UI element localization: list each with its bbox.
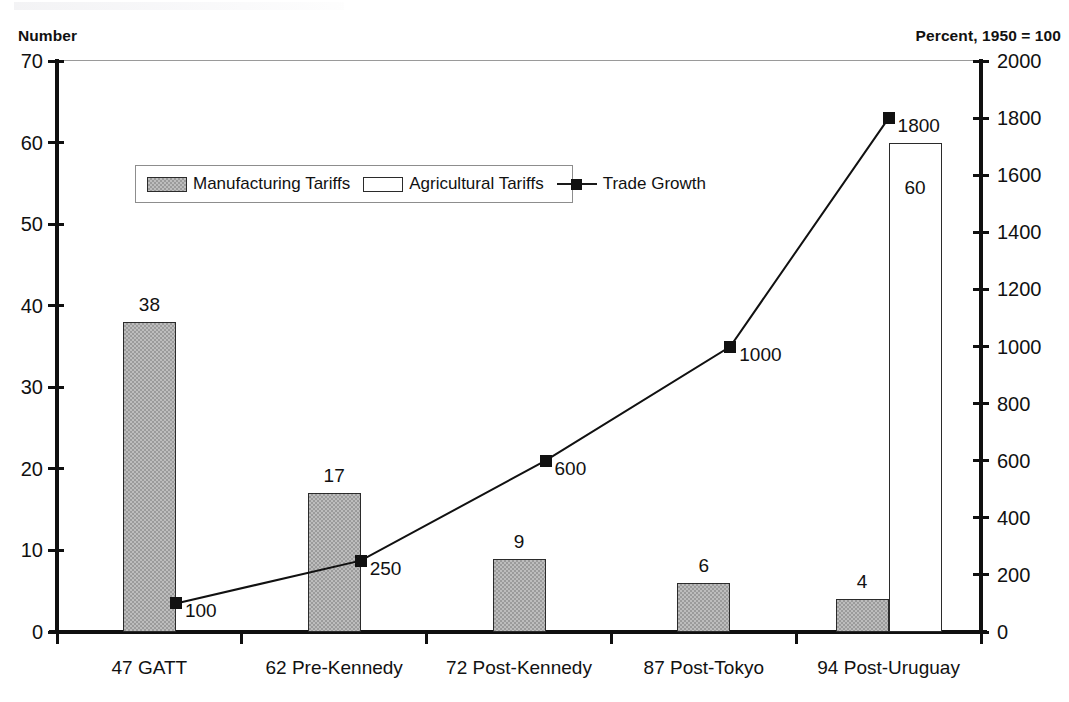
x-tick — [240, 630, 243, 644]
legend-label-trade-growth: Trade Growth — [603, 174, 706, 194]
left-tick-label: 50 — [21, 214, 43, 234]
right-tick-label: 200 — [997, 565, 1030, 585]
left-tick-label: 40 — [21, 296, 43, 316]
right-tick-label: 600 — [997, 451, 1030, 471]
x-category-label: 87 Post-Tokyo — [644, 657, 764, 679]
legend-item-agricultural: Agricultural Tariffs — [363, 174, 543, 194]
legend-item-manufacturing: Manufacturing Tariffs — [147, 174, 350, 194]
plot-area: 010203040506070 020040060080010001200140… — [57, 61, 981, 632]
scan-artifact — [14, 2, 344, 10]
chart-figure: Number Percent, 1950 = 100 0102030405060… — [0, 0, 1069, 702]
right-tick-label: 400 — [997, 508, 1030, 528]
trade-growth-swatch-icon — [557, 178, 597, 190]
right-tick-label: 1400 — [997, 222, 1042, 242]
trade-growth-marker — [355, 555, 367, 567]
x-tick — [425, 630, 428, 644]
right-tick-label: 2000 — [997, 51, 1042, 71]
right-axis-title: Percent, 1950 = 100 — [916, 27, 1061, 45]
x-category-label: 72 Post-Kennedy — [446, 657, 592, 679]
manufacturing-swatch-icon — [147, 177, 187, 192]
x-tick — [980, 630, 983, 644]
agricultural-swatch-icon — [363, 177, 403, 192]
left-tick-label: 20 — [21, 459, 43, 479]
left-axis-title: Number — [18, 27, 77, 45]
trade-growth-line — [57, 61, 981, 632]
trade-growth-value-label: 100 — [185, 600, 217, 622]
legend-label-agricultural: Agricultural Tariffs — [409, 174, 543, 194]
trade-growth-marker — [883, 112, 895, 124]
trade-growth-value-label: 1800 — [898, 115, 940, 137]
trade-growth-marker — [724, 341, 736, 353]
legend-item-trade-growth: Trade Growth — [557, 174, 706, 194]
left-tick-label: 60 — [21, 133, 43, 153]
left-tick-label: 10 — [21, 540, 43, 560]
trade-growth-value-label: 1000 — [739, 344, 781, 366]
right-tick-label: 1800 — [997, 108, 1042, 128]
x-category-label: 62 Pre-Kennedy — [266, 657, 403, 679]
x-tick — [610, 630, 613, 644]
trade-growth-marker — [540, 455, 552, 467]
right-tick-label: 800 — [997, 394, 1030, 414]
left-tick-label: 70 — [21, 51, 43, 71]
trade-growth-marker — [170, 597, 182, 609]
legend: Manufacturing Tariffs Agricultural Tarif… — [135, 165, 573, 203]
x-category-label: 47 GATT — [112, 657, 188, 679]
right-tick-label: 0 — [997, 622, 1008, 642]
left-tick-label: 30 — [21, 377, 43, 397]
trade-growth-value-label: 250 — [370, 558, 402, 580]
trade-growth-value-label: 600 — [555, 458, 587, 480]
x-tick — [56, 630, 59, 644]
right-tick-label: 1000 — [997, 337, 1042, 357]
x-category-label: 94 Post-Uruguay — [817, 657, 960, 679]
right-tick-label: 1600 — [997, 165, 1042, 185]
right-tick-label: 1200 — [997, 279, 1042, 299]
x-tick — [795, 630, 798, 644]
left-tick-label: 0 — [32, 622, 43, 642]
legend-label-manufacturing: Manufacturing Tariffs — [193, 174, 350, 194]
